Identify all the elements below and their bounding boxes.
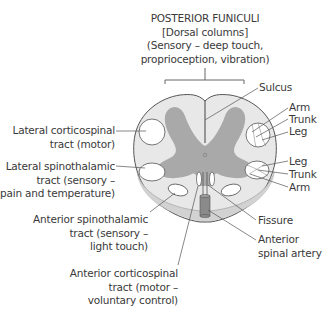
label-lower-leg: Leg	[289, 155, 307, 169]
right-lateral-corticospinal-tract	[246, 123, 270, 147]
label-lateral-spinothalamic: Lateral spinothalamic tract (sensory – p…	[0, 160, 115, 201]
label-upper-leg: Leg	[289, 125, 307, 139]
label-anterior-corticospinal: Anterior corticospinal tract (motor – vo…	[70, 267, 178, 308]
title-line-3: (Sensory – deep touch,	[130, 39, 280, 53]
title-line-1: POSTERIOR FUNICULI	[130, 12, 280, 26]
label-lateral-corticospinal: Lateral corticospinal tract (motor)	[13, 124, 115, 151]
posterior-funiculi-bracket	[165, 68, 244, 84]
label-fissure: Fissure	[258, 214, 293, 228]
label-lower-trunk: Trunk	[289, 168, 317, 182]
left-lateral-spinothalamic-tract	[139, 163, 165, 181]
posterior-funiculi-title: POSTERIOR FUNICULI [Dorsal columns] (Sen…	[130, 12, 280, 66]
label-sulcus: Sulcus	[259, 81, 292, 95]
label-anterior-spinothalamic: Anterior spinothalamic tract (sensory – …	[33, 213, 148, 254]
title-line-2: [Dorsal columns]	[130, 26, 280, 40]
label-lower-arm: Arm	[289, 181, 310, 195]
anterior-spinal-artery	[200, 195, 210, 218]
left-lateral-corticospinal-tract	[139, 119, 165, 145]
title-line-4: proprioception, vibration)	[130, 53, 280, 67]
left-anterior-corticospinal-tract	[197, 172, 202, 186]
right-anterior-corticospinal-tract	[210, 172, 215, 186]
label-anterior-spinal-artery: Anterior spinal artery	[258, 233, 322, 260]
